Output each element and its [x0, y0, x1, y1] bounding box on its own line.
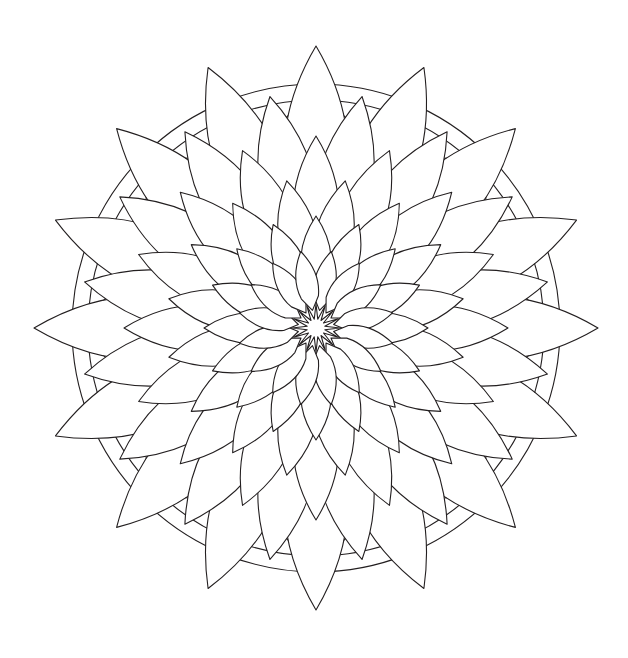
- coloring-page-canvas: [0, 0, 628, 658]
- center-star-group: [292, 304, 340, 352]
- center-star: [292, 304, 340, 352]
- mandala-line-art: [34, 46, 598, 610]
- mandala-artwork: [0, 0, 628, 658]
